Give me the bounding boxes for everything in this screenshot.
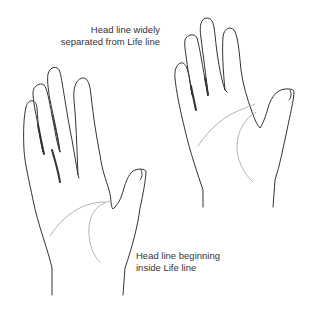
- hand-right-palm-lines: [198, 104, 256, 182]
- finger-line-3: [52, 150, 60, 182]
- caption-beginning-inside-line2: inside Life line: [136, 262, 276, 274]
- hand-left-outline: [24, 67, 146, 295]
- caption-widely-separated-line1: Head line widely: [30, 24, 160, 36]
- hand-left-palm-lines: [50, 201, 110, 262]
- caption-widely-separated-line2: separated from Life line: [30, 36, 160, 48]
- finger-line-r1: [191, 86, 196, 110]
- finger-line-4: [78, 175, 79, 178]
- caption-beginning-inside-line1: Head line beginning: [136, 250, 276, 262]
- caption-widely-separated: Head line widely separated from Life lin…: [30, 24, 160, 48]
- head-line-left: [50, 202, 105, 236]
- head-line-right: [198, 104, 255, 146]
- finger-line-2: [38, 125, 44, 154]
- life-line-right: [237, 112, 256, 182]
- finger-line-r3: [225, 90, 227, 92]
- thumbnail-right: [289, 90, 291, 100]
- hand-left-illustration: [24, 67, 146, 295]
- thumbnail: [140, 170, 142, 180]
- finger-line-r2: [205, 78, 208, 95]
- finger-line-1: [52, 115, 60, 152]
- life-line-left: [89, 201, 110, 262]
- caption-beginning-inside: Head line beginning inside Life line: [136, 250, 276, 274]
